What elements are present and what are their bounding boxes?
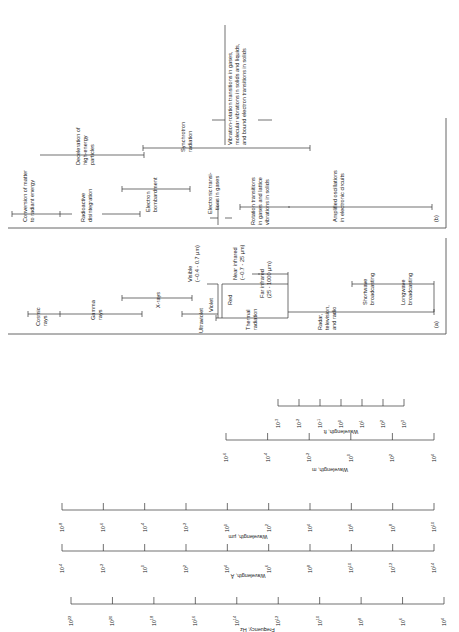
tick-label: 10-2 bbox=[182, 522, 190, 532]
panel-a-tag: (a) bbox=[433, 321, 439, 328]
band-thermal: Thermalradiation bbox=[245, 309, 258, 330]
tick-label: 104 bbox=[430, 453, 438, 462]
panel-b-tag: (b) bbox=[433, 215, 439, 222]
band-shortwave: Shortwavebroadcasting bbox=[362, 273, 375, 305]
tick-label: 102 bbox=[388, 453, 396, 462]
band-red: Red bbox=[227, 295, 233, 305]
tick-label: 1018 bbox=[149, 615, 157, 626]
band-longwave: Longwavebroadcasting bbox=[400, 273, 413, 305]
axis-title-wavelength-ft: Wavelength, ft bbox=[323, 429, 358, 435]
source-synchrotron: Synchrotronradiation bbox=[180, 122, 193, 152]
tick-label: 10-2 bbox=[99, 563, 107, 573]
panel-b: (b) Conversion of matterto radiant energ… bbox=[8, 25, 446, 228]
tick-label: 10-4 bbox=[140, 522, 148, 532]
tick-label: 106 bbox=[398, 617, 406, 626]
tick-label: 1020 bbox=[108, 615, 116, 626]
tick-label: 100 bbox=[140, 564, 148, 573]
tick-label: 1022 bbox=[67, 615, 75, 626]
tick-label: 108 bbox=[306, 564, 314, 573]
tick-label: 10-8 bbox=[58, 522, 66, 532]
scale-axes: 1022102010181016101410121010108106104Fre… bbox=[58, 399, 448, 632]
tick-label: 1012 bbox=[388, 562, 396, 573]
tick-label: 10-4 bbox=[58, 563, 66, 573]
source-vibration-rotation: Vibration-rotation transitions in gases,… bbox=[227, 43, 247, 145]
tick-label: 102 bbox=[264, 523, 272, 532]
band-cosmic-rays: Cosmicrays bbox=[35, 307, 48, 326]
band-ultraviolet: Ultraviolet bbox=[198, 308, 204, 333]
band-radar-tv-radio: Radar,television,and radio bbox=[317, 305, 337, 330]
tick-label: 101 bbox=[358, 419, 366, 428]
tick-label: 1014 bbox=[430, 562, 438, 573]
tick-label: 104 bbox=[306, 523, 314, 532]
tick-label: 102 bbox=[379, 419, 387, 428]
tick-label: 106 bbox=[264, 564, 272, 573]
em-spectrum-diagram: (b) Conversion of matterto radiant energ… bbox=[0, 0, 459, 632]
tick-label: 1010 bbox=[347, 562, 355, 573]
band-x-rays: X-rays bbox=[155, 292, 161, 308]
source-radioactive: Radioactivedisintegration bbox=[80, 189, 93, 222]
panel-a: (a) Cosmicrays Gammarays X-rays Ultravio… bbox=[8, 238, 446, 334]
tick-label: 104 bbox=[223, 564, 231, 573]
axis-title-wavelength-angstrom: Wavelength, Å bbox=[230, 573, 265, 579]
tick-label: 10-2 bbox=[305, 452, 313, 462]
source-amplified: Amplified oscillationsin electronic circ… bbox=[332, 170, 345, 222]
tick-label: 1016 bbox=[191, 615, 199, 626]
source-deceleration: Deceleration ofhigh-energyparticles bbox=[75, 127, 95, 165]
tick-label: 100 bbox=[337, 419, 345, 428]
tick-label: 100 bbox=[223, 523, 231, 532]
tick-label: 104 bbox=[440, 617, 448, 626]
band-visible: Visible(~0.4 - 0.7 µm) bbox=[187, 245, 200, 282]
tick-label: 10-6 bbox=[222, 452, 230, 462]
tick-label: 100 bbox=[346, 453, 354, 462]
tick-label: 1012 bbox=[274, 615, 282, 626]
tick-label: 1014 bbox=[232, 615, 240, 626]
axis-title-wavelength-m: Wavelength, m bbox=[312, 467, 348, 473]
band-far-infrared: Far infrared(25 - 1000 µm) bbox=[259, 261, 272, 298]
tick-label: 10-3 bbox=[274, 418, 282, 428]
band-gamma-rays: Gammarays bbox=[90, 299, 103, 320]
tick-label: 10-1 bbox=[316, 418, 324, 428]
source-electron-bombardment: Electronbombardment bbox=[145, 177, 158, 212]
tick-label: 103 bbox=[400, 419, 408, 428]
tick-label: 10-2 bbox=[295, 418, 303, 428]
source-conversion: Conversion of matterto radiant energy bbox=[22, 170, 35, 222]
source-electronic-transitions: Electronic transi-tions in gases bbox=[207, 172, 220, 214]
axis-title-frequency: Frequency, Hz bbox=[240, 627, 275, 632]
tick-label: 10-6 bbox=[99, 522, 107, 532]
tick-label: 1010 bbox=[430, 521, 438, 532]
band-violet: Violet bbox=[208, 298, 214, 312]
tick-label: 10-4 bbox=[263, 452, 271, 462]
tick-label: 106 bbox=[347, 523, 355, 532]
axis-title-wavelength-um: Wavelength, µm bbox=[228, 534, 267, 540]
source-rotation: Rotation transitionsin gases and lattice… bbox=[250, 177, 270, 225]
tick-label: 108 bbox=[388, 523, 396, 532]
band-near-infrared: Near infrared(~0.7 - 25 µm) bbox=[232, 244, 245, 280]
tick-label: 108 bbox=[357, 617, 365, 626]
tick-label: 102 bbox=[182, 564, 190, 573]
tick-label: 1010 bbox=[315, 615, 323, 626]
